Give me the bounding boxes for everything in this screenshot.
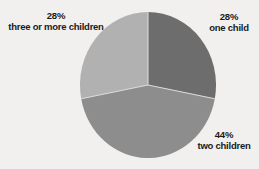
pie-chart-figure: 28% three or more children 28% one child…: [0, 0, 259, 169]
pie-label-two-children: 44% two children: [192, 129, 256, 151]
pie-label-one-child-percent: 28%: [200, 11, 258, 22]
pie-label-one-child: 28% one child: [200, 11, 258, 33]
pie-label-three-or-more-children-category: three or more children: [4, 21, 108, 32]
pie-label-three-or-more-children-percent: 28%: [4, 10, 108, 21]
pie-label-one-child-category: one child: [200, 22, 258, 33]
pie-label-three-or-more-children: 28% three or more children: [4, 10, 108, 32]
pie-label-two-children-category: two children: [192, 140, 256, 151]
pie-label-two-children-percent: 44%: [192, 129, 256, 140]
